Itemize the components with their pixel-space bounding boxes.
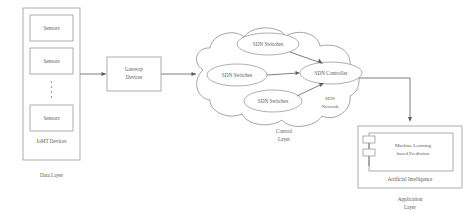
- sensor-label-2: Sensors: [43, 58, 59, 64]
- ml-node-icon-bottom: [363, 149, 375, 156]
- ml-prediction-label-line1: Machine Learning: [395, 143, 432, 148]
- data-layer-label: Data Layer: [40, 172, 63, 178]
- ellipsis-dot-4: [51, 96, 52, 97]
- ellipsis-dot-3: [51, 91, 52, 92]
- sdn-network-label-line1: SDN: [325, 96, 335, 101]
- connector-switch-top-to-controller: [290, 52, 321, 63]
- arrowhead-switch-left-to-controller: [296, 71, 301, 75]
- ellipsis-dot-2: [51, 86, 52, 87]
- sensor-label-3: Sensors: [43, 115, 59, 121]
- gateway-label-line2: Devices: [126, 74, 143, 80]
- sdn-switches-label-top: SDN Switches: [253, 41, 283, 47]
- architecture-diagram: Sensors Sensors Sensors IoMT Devices Dat…: [0, 0, 474, 220]
- iomt-devices-label-line1: IoMT Devices: [36, 138, 66, 144]
- sensor-label-1: Sensors: [43, 25, 59, 31]
- arrowhead-gateway-to-cloud: [192, 72, 197, 76]
- sdn-network-label-line2: Network: [321, 104, 339, 109]
- arrowhead-switch-bottom-to-controller: [319, 83, 324, 87]
- ellipsis-dot-1: [51, 81, 52, 82]
- connector-switch-left-to-controller: [267, 73, 298, 75]
- gateway-label-line1: Gateway: [125, 66, 144, 72]
- arrowhead-cloud-to-ai: [408, 117, 412, 122]
- sdn-switches-label-left: SDN Switches: [222, 72, 252, 78]
- ml-prediction-label-line2: based Prediction: [397, 151, 430, 156]
- application-layer-label-line2: Layer: [404, 204, 416, 210]
- control-layer-label-line2: Layer: [278, 136, 290, 142]
- connector-switch-bottom-to-controller: [297, 84, 322, 96]
- sdn-switches-label-bottom: SDN Switches: [258, 98, 288, 104]
- diagram-canvas: Sensors Sensors Sensors IoMT Devices Dat…: [0, 0, 474, 220]
- application-layer-label-line1: Application: [398, 196, 423, 202]
- artificial-intelligence-label: Artificial Intelligence: [388, 176, 433, 182]
- ml-node-icon-top: [363, 136, 375, 143]
- control-layer-label-line1: Control: [276, 128, 292, 134]
- connector-cloud-to-ai: [359, 78, 410, 120]
- arrowhead-iomt-to-gateway: [102, 72, 107, 76]
- sdn-controller-label: SDN Controller: [315, 70, 348, 76]
